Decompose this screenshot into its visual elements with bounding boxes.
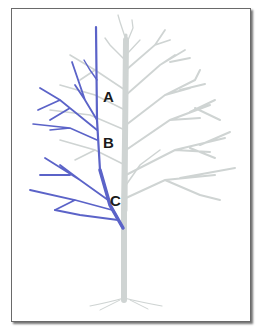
label-a: A [103,89,114,104]
tree-illustration [0,0,260,329]
label-c: C [110,193,121,208]
gray-tree [50,15,235,310]
label-b: B [103,135,114,150]
